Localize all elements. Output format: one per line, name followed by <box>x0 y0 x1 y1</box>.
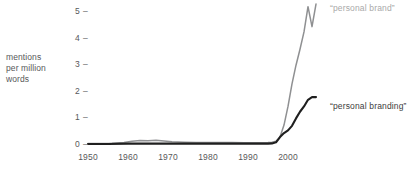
series-line-personal-brand <box>88 4 316 143</box>
y-tick-label-0: 0 <box>58 139 80 149</box>
series-line-personal-branding <box>88 97 316 144</box>
y-tick-label-3: 3 <box>58 59 80 69</box>
series-personal-branding-group <box>88 97 316 144</box>
series-personal-brand-group <box>88 4 316 143</box>
y-tick-label-4: 4 <box>58 33 80 43</box>
series-label-personal-branding: “personal branding” <box>330 101 407 111</box>
x-tick-label-2000: 2000 <box>271 152 305 162</box>
y-tick-mark-0: – <box>83 139 88 149</box>
y-tick-label-1: 1 <box>58 112 80 122</box>
y-tick-mark-1: – <box>83 112 88 122</box>
x-tick-label-1960: 1960 <box>111 152 145 162</box>
x-tick-label-1950: 1950 <box>71 152 105 162</box>
x-tick-label-1980: 1980 <box>191 152 225 162</box>
x-tick-label-1990: 1990 <box>231 152 265 162</box>
y-tick-label-5: 5 <box>58 6 80 16</box>
y-tick-label-2: 2 <box>58 86 80 96</box>
y-tick-mark-5: – <box>83 6 88 16</box>
y-axis-title-line-3: words <box>6 74 78 85</box>
y-tick-mark-2: – <box>83 86 88 96</box>
series-label-personal-brand: “personal brand” <box>330 3 395 13</box>
y-tick-mark-4: – <box>83 33 88 43</box>
x-tick-label-1970: 1970 <box>151 152 185 162</box>
y-tick-mark-3: – <box>83 59 88 69</box>
